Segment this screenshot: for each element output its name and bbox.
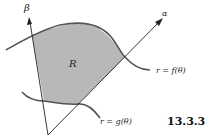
ray-beta-arrowhead: [27, 17, 32, 25]
figure-number: 13.3.3: [167, 115, 205, 128]
ray-beta-label: β: [24, 2, 30, 13]
region-label: R: [69, 58, 77, 69]
ray-alpha-label: α: [162, 9, 167, 18]
outer-curve-label: r = f(θ): [156, 66, 186, 75]
inner-curve-label: r = g(θ): [100, 117, 132, 126]
